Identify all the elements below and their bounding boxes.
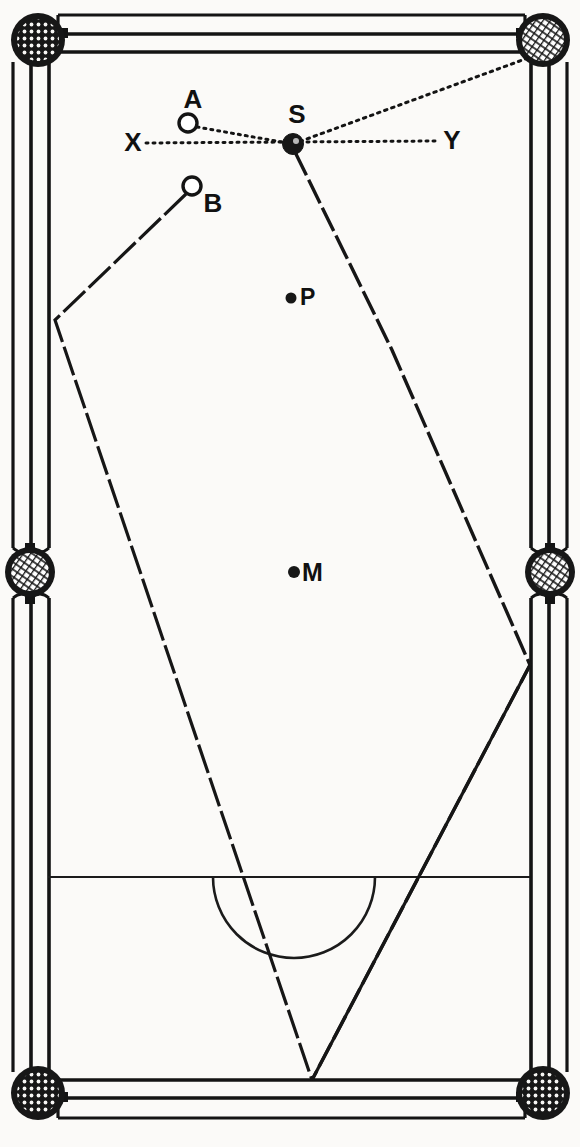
- pocket-bottom-left[interactable]: [11, 1066, 65, 1120]
- top-rail: [54, 15, 531, 52]
- billiard-table-diagram: A B S P M X Y: [0, 0, 580, 1147]
- label-b: B: [204, 188, 223, 218]
- cue-ball-path-from-s: [295, 152, 530, 1080]
- pocket-top-left[interactable]: [11, 13, 65, 67]
- reflection-leg-right-cushion: [312, 665, 530, 1080]
- balls-group: [179, 114, 304, 195]
- table-rails: [13, 15, 567, 1118]
- label-s: S: [288, 99, 305, 129]
- ball-b[interactable]: [183, 177, 201, 195]
- table-markings: [48, 877, 530, 958]
- object-ball-path-from-b: [55, 194, 312, 1080]
- ball-s-highlight: [293, 138, 299, 144]
- spot-markers: [286, 293, 301, 579]
- label-y: Y: [443, 125, 460, 155]
- pocket-notches: [25, 28, 555, 1102]
- d-semicircle: [213, 877, 375, 958]
- pocket-bottom-right[interactable]: [516, 1066, 570, 1120]
- diagram-labels: A B S P M X Y: [124, 84, 460, 586]
- billiard-diagram-page: A B S P M X Y: [0, 0, 580, 1147]
- label-a: A: [184, 84, 203, 114]
- label-m: M: [302, 558, 323, 586]
- pot-line-s-to-top-right-pocket: [293, 58, 528, 144]
- pocket-middle-right[interactable]: [525, 547, 575, 597]
- ball-s[interactable]: [283, 134, 304, 155]
- spot-m-dot: [288, 566, 300, 578]
- label-x: X: [124, 127, 142, 157]
- bottom-rail: [54, 1080, 531, 1118]
- ball-a[interactable]: [179, 114, 197, 132]
- pockets-group: [5, 13, 575, 1120]
- pocket-middle-left[interactable]: [5, 547, 55, 597]
- label-p: P: [300, 284, 315, 310]
- spot-p-dot: [286, 293, 297, 304]
